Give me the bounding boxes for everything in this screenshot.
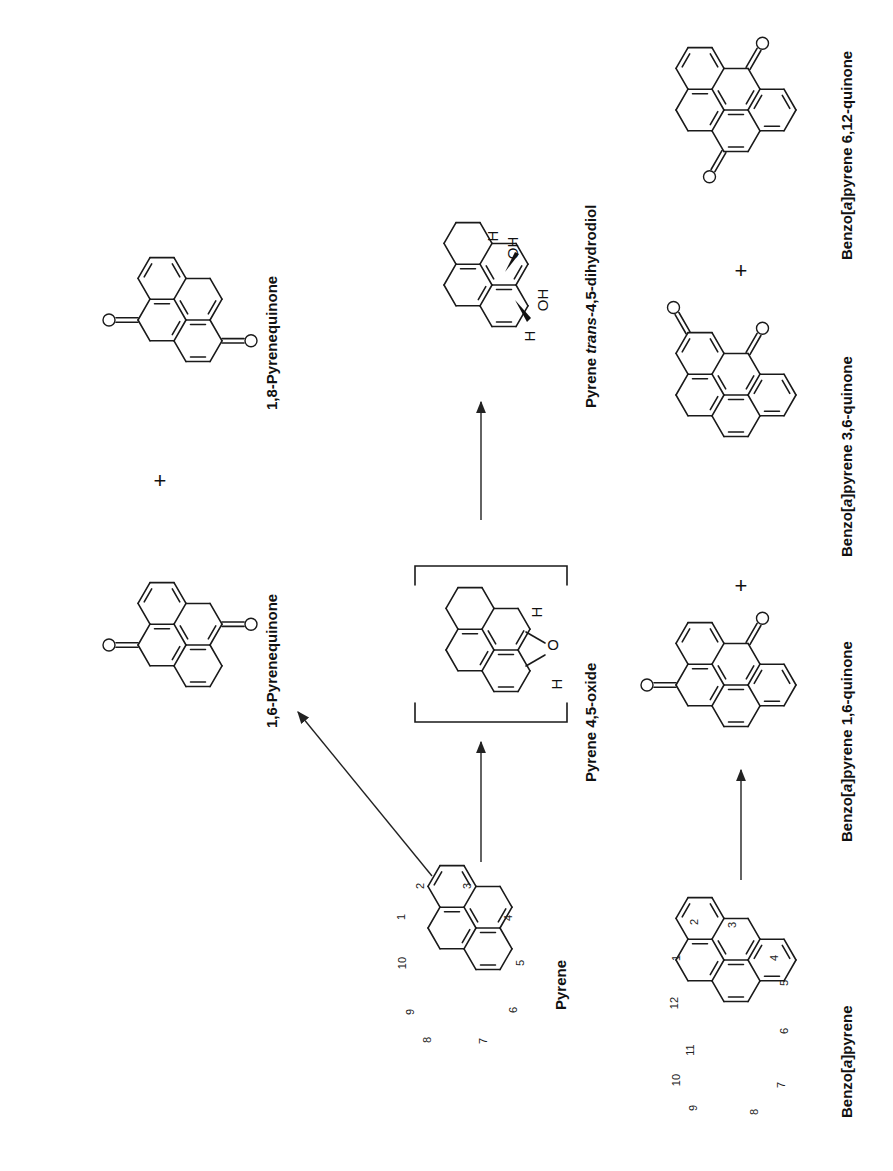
1-8-pyrenequinone-structure	[103, 258, 257, 362]
1-6-pyrenequinone-structure	[103, 583, 257, 687]
label-1-6-pyrenequinone: 1,6-Pyrenequinone	[263, 594, 280, 728]
position-number: 3	[726, 922, 738, 928]
label-pyrene-trans-dihydrodiol: Pyrene trans-4,5-dihydrodiol	[582, 205, 599, 408]
position-number: 10	[670, 1074, 682, 1086]
position-number: 5	[778, 980, 790, 986]
position-number: 3	[461, 883, 473, 889]
hydrogen-atom: H	[548, 679, 565, 690]
label-pyrene-4-5-oxide: Pyrene 4,5-oxide	[582, 663, 599, 782]
position-number: 4	[502, 915, 514, 921]
bap-3-6-quinone-structure	[668, 302, 797, 437]
oxygen-atom: O	[547, 636, 559, 653]
bracket-top	[415, 566, 567, 585]
label-pyrene: Pyrene	[552, 960, 569, 1010]
position-number: 12	[668, 997, 680, 1009]
position-number: 7	[477, 1038, 489, 1044]
position-number: 10	[396, 957, 408, 969]
hydrogen-atom: H	[528, 607, 545, 618]
hydrogen-atom: H	[521, 331, 538, 342]
position-number: 8	[421, 1037, 433, 1043]
position-number: 2	[414, 883, 426, 889]
plus-sign: +	[735, 258, 748, 283]
position-number: 1	[670, 955, 682, 961]
benzo-a-pyrene-structure: 123456789101112	[668, 898, 796, 1115]
position-number: 2	[688, 919, 700, 925]
hydroxyl-group: OH	[534, 289, 551, 312]
plus-sign: +	[154, 468, 167, 493]
bracket-bottom	[415, 703, 567, 722]
reaction-scheme: 12345678910 OHH OHOHHH 123456789101112 +…	[0, 0, 893, 1171]
plus-sign: +	[735, 573, 748, 598]
position-number: 6	[507, 1007, 519, 1013]
position-number: 4	[768, 955, 780, 961]
hydroxyl-group: OH	[504, 237, 521, 260]
pyrene-structure: 12345678910	[395, 866, 526, 1044]
position-number: 8	[748, 1109, 760, 1115]
position-number: 5	[514, 960, 526, 966]
bap-6-12-quinone-structure	[676, 37, 796, 182]
position-number: 9	[687, 1105, 699, 1111]
hydrogen-atom: H	[484, 231, 501, 242]
label-benzo-a-pyrene: Benzo[a]pyrene	[838, 1005, 855, 1118]
bap-1-6-quinone-structure	[641, 612, 796, 726]
position-number: 7	[775, 1082, 787, 1088]
label-bap-1-6-quinone: Benzo[a]pyrene 1,6-quinone	[838, 641, 855, 842]
position-number: 6	[778, 1028, 790, 1034]
arrow-pyrene-to-pyrenequinones	[298, 712, 432, 876]
position-number: 11	[684, 1044, 696, 1055]
pyrene-dihydrodiol-structure: OHOHHH	[444, 223, 551, 342]
label-bap-6-12-quinone: Benzo[a]pyrene 6,12-quinone	[838, 51, 855, 260]
position-number: 9	[404, 1009, 416, 1015]
label-bap-3-6-quinone: Benzo[a]pyrene 3,6-quinone	[838, 356, 855, 557]
label-1-8-pyrenequinone: 1,8-Pyrenequinone	[263, 276, 280, 410]
pyrene-oxide-structure: OHH	[446, 588, 565, 692]
position-number: 1	[395, 914, 407, 920]
